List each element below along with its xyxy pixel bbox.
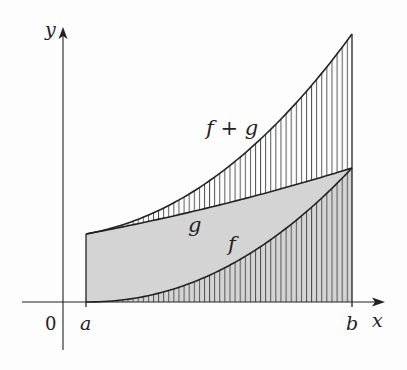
x-axis-label: x — [372, 309, 383, 331]
y-axis-label: y — [44, 18, 56, 40]
interval-label-b: b — [346, 312, 358, 334]
curve-label-f-plus-g: f + g — [204, 116, 258, 140]
curve-label-g: g — [188, 213, 201, 237]
diagram-canvas: y x 0 a b f + g g f — [0, 0, 407, 370]
interval-label-a: a — [80, 312, 91, 334]
origin-label: 0 — [45, 313, 56, 334]
